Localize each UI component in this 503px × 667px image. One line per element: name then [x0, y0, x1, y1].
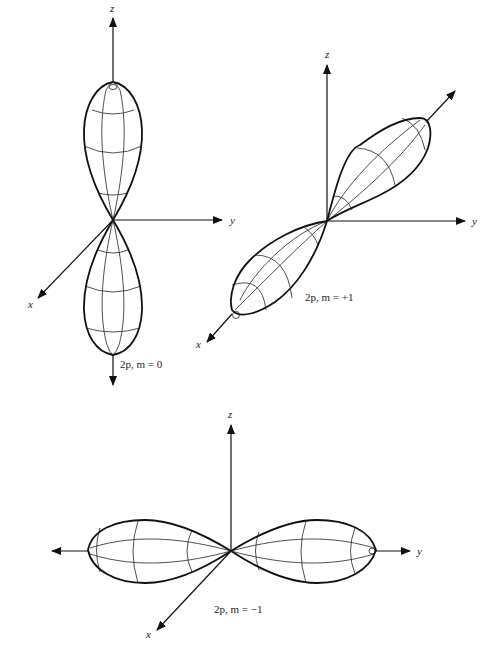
caption-m-plus-1: 2p, m = +1 [305, 291, 353, 303]
y-axis-label: y [471, 215, 477, 227]
x-axis [157, 551, 231, 630]
caption-m0: 2p, m = 0 [120, 358, 163, 370]
y-axis-label: y [229, 214, 235, 226]
z-axis-label: z [109, 2, 115, 14]
lower-lobe [84, 220, 142, 355]
y-axis-label: y [416, 545, 422, 557]
x-axis [38, 220, 113, 298]
x-axis-label: x [27, 298, 33, 310]
figure-m0: z y x 2p, m = 0 [27, 2, 235, 385]
diagonal-axis [426, 91, 455, 122]
upper-right-lobe [327, 118, 430, 221]
x-axis [207, 314, 232, 342]
right-lobe [231, 520, 376, 583]
z-axis-label: z [324, 48, 330, 60]
lower-left-lobe [231, 221, 327, 319]
orbital-diagrams: z y x 2p, m = 0 z y [0, 0, 503, 667]
caption-m-minus-1: 2p, m = −1 [214, 603, 262, 615]
upper-lobe [84, 82, 142, 220]
figure-m-plus-1: z y x 2p, m = +1 [195, 48, 477, 350]
z-axis-label: z [227, 408, 233, 420]
figure-m-minus-1: z y x 2p, m = −1 [52, 408, 422, 640]
x-axis-label: x [195, 338, 201, 350]
x-axis-label: x [145, 628, 151, 640]
